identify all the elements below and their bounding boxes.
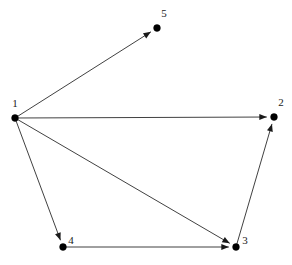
arrowhead-icon	[267, 124, 273, 132]
arrowhead-icon	[143, 32, 151, 39]
edge-line	[17, 32, 151, 117]
arrowhead-icon	[222, 237, 230, 243]
node-dot-4[interactable]	[60, 244, 67, 251]
arrowhead-icon	[259, 114, 267, 120]
graph-edge-1-to-5	[17, 32, 151, 117]
node-dot-3[interactable]	[233, 244, 240, 251]
graph-edge-1-to-3	[17, 119, 230, 243]
graph-node-5[interactable]: 5	[154, 7, 168, 31]
nodes-layer: 12345	[12, 7, 284, 250]
graph-edge-1-to-2	[17, 114, 266, 120]
node-label-5: 5	[161, 7, 167, 19]
arrowhead-icon	[55, 232, 61, 240]
graph-canvas: 12345	[0, 0, 292, 265]
edge-line	[17, 119, 230, 243]
node-label-1: 1	[12, 97, 18, 109]
node-dot-5[interactable]	[154, 25, 161, 32]
graph-node-4[interactable]: 4	[60, 234, 75, 250]
node-label-2: 2	[278, 96, 284, 108]
directed-graph-figure: 12345	[0, 0, 292, 265]
node-dot-1[interactable]	[12, 115, 19, 122]
graph-node-3[interactable]: 3	[233, 234, 249, 250]
graph-node-2[interactable]: 2	[271, 96, 284, 120]
edge-line	[237, 124, 272, 245]
graph-edge-3-to-2	[237, 124, 273, 245]
edge-line	[17, 117, 266, 118]
arrowhead-icon	[221, 244, 229, 250]
node-label-3: 3	[242, 234, 248, 246]
edges-layer	[16, 32, 273, 250]
node-dot-2[interactable]	[271, 114, 278, 121]
graph-edge-1-to-4	[16, 120, 61, 240]
node-label-4: 4	[68, 234, 74, 246]
edge-line	[16, 120, 61, 240]
graph-edge-4-to-3	[65, 244, 228, 250]
graph-node-1[interactable]: 1	[12, 97, 19, 121]
